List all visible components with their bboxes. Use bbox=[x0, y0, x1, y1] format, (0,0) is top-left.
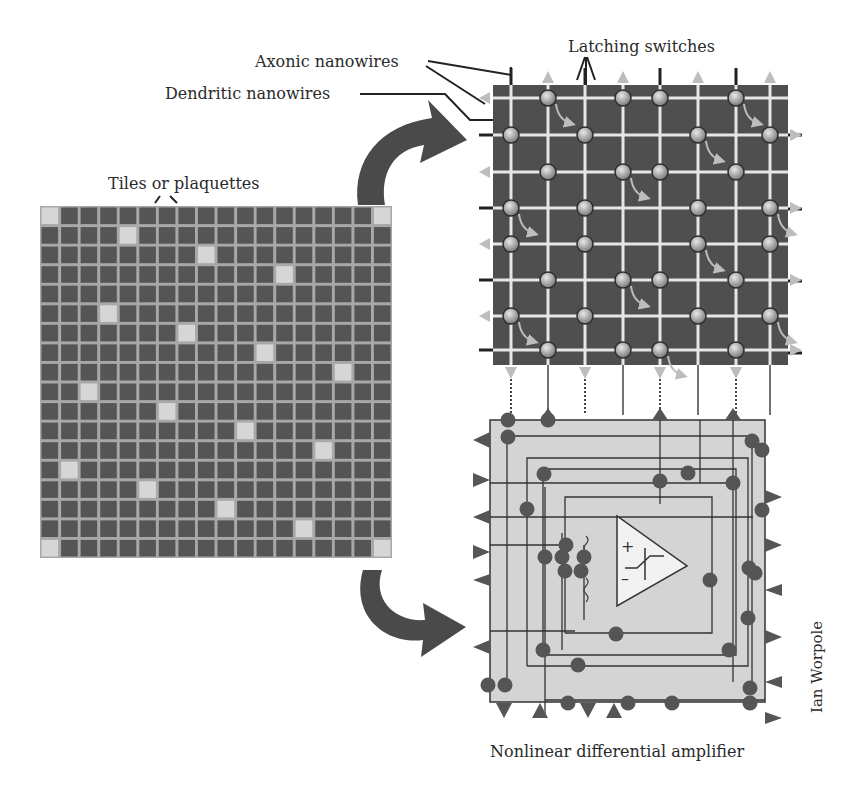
tile-dark bbox=[100, 462, 117, 479]
circuit-node bbox=[577, 550, 592, 565]
tile-dark bbox=[315, 364, 332, 381]
circuit-node bbox=[743, 681, 758, 696]
tile-dark bbox=[178, 266, 195, 283]
tile-dark bbox=[315, 286, 332, 303]
tile-dark bbox=[335, 344, 352, 361]
circuit-node bbox=[742, 561, 757, 576]
io-arrow-icon bbox=[473, 473, 490, 487]
latching-switch bbox=[615, 90, 631, 106]
nanowire-crossbar bbox=[479, 68, 802, 415]
curved-arrow-up-icon bbox=[357, 100, 467, 205]
tile-light bbox=[120, 227, 137, 244]
latching-switch bbox=[690, 200, 706, 216]
tile-dark bbox=[139, 208, 156, 225]
tile-dark bbox=[237, 384, 254, 401]
tile-dark bbox=[139, 286, 156, 303]
tile-dark bbox=[178, 540, 195, 557]
circuit-node bbox=[722, 643, 737, 658]
tile-light bbox=[276, 266, 293, 283]
tile-dark bbox=[120, 520, 137, 537]
tile-dark bbox=[315, 208, 332, 225]
io-arrow-icon bbox=[580, 703, 596, 718]
latching-switch bbox=[577, 236, 593, 252]
tile-light bbox=[42, 540, 59, 557]
tile-dark bbox=[354, 384, 371, 401]
circuit-node bbox=[703, 573, 718, 588]
tile-dark bbox=[257, 364, 274, 381]
tile-dark bbox=[139, 227, 156, 244]
tile-dark bbox=[198, 540, 215, 557]
tile-light bbox=[296, 520, 313, 537]
tile-dark bbox=[198, 325, 215, 342]
tile-dark bbox=[120, 481, 137, 498]
tile-dark bbox=[237, 344, 254, 361]
tile-dark bbox=[335, 423, 352, 440]
tile-dark bbox=[276, 364, 293, 381]
latching-switch bbox=[503, 308, 519, 324]
tile-dark bbox=[42, 384, 59, 401]
tile-dark bbox=[315, 344, 332, 361]
circuit-node bbox=[481, 678, 496, 693]
tile-dark bbox=[139, 247, 156, 264]
tile-dark bbox=[276, 540, 293, 557]
tile-dark bbox=[276, 481, 293, 498]
tile-dark bbox=[218, 364, 235, 381]
tile-dark bbox=[335, 403, 352, 420]
tile-dark bbox=[374, 344, 391, 361]
tile-dark bbox=[178, 286, 195, 303]
tile-dark bbox=[81, 208, 98, 225]
tile-dark bbox=[354, 208, 371, 225]
tile-light bbox=[42, 208, 59, 225]
tile-dark bbox=[120, 384, 137, 401]
latching-switch bbox=[540, 272, 556, 288]
tile-dark bbox=[178, 227, 195, 244]
tile-dark bbox=[296, 423, 313, 440]
tile-dark bbox=[374, 384, 391, 401]
tile-dark bbox=[237, 481, 254, 498]
latching-switch bbox=[615, 342, 631, 358]
tile-dark bbox=[100, 247, 117, 264]
tile-dark bbox=[315, 247, 332, 264]
tile-light bbox=[257, 344, 274, 361]
tile-dark bbox=[218, 325, 235, 342]
tile-dark bbox=[218, 403, 235, 420]
circuit-node bbox=[520, 502, 535, 517]
tile-dark bbox=[120, 364, 137, 381]
tile-dark bbox=[335, 481, 352, 498]
circuit-node bbox=[574, 564, 589, 579]
tile-dark bbox=[296, 540, 313, 557]
tile-dark bbox=[257, 384, 274, 401]
tile-dark bbox=[139, 344, 156, 361]
tile-dark bbox=[100, 540, 117, 557]
tile-grid bbox=[40, 206, 392, 558]
tile-dark bbox=[159, 227, 176, 244]
tile-dark bbox=[257, 266, 274, 283]
tile-light bbox=[335, 364, 352, 381]
tile-dark bbox=[218, 227, 235, 244]
tile-dark bbox=[139, 501, 156, 518]
tile-dark bbox=[81, 520, 98, 537]
circuit-node bbox=[501, 413, 516, 428]
tile-dark bbox=[296, 208, 313, 225]
tile-dark bbox=[81, 403, 98, 420]
tile-light bbox=[374, 208, 391, 225]
tile-dark bbox=[237, 286, 254, 303]
tile-dark bbox=[61, 227, 78, 244]
circuit-node bbox=[561, 696, 576, 711]
circuit-node bbox=[536, 643, 551, 658]
tile-dark bbox=[159, 501, 176, 518]
tile-dark bbox=[335, 384, 352, 401]
tile-dark bbox=[120, 305, 137, 322]
tile-dark bbox=[178, 423, 195, 440]
io-arrow-icon bbox=[606, 703, 622, 718]
credit-label: Ian Worpole bbox=[808, 621, 826, 713]
tile-dark bbox=[374, 423, 391, 440]
tile-dark bbox=[218, 305, 235, 322]
tile-dark bbox=[257, 305, 274, 322]
tile-dark bbox=[237, 305, 254, 322]
tile-dark bbox=[198, 364, 215, 381]
io-arrow-icon bbox=[765, 490, 782, 504]
latching-switch bbox=[615, 272, 631, 288]
tile-dark bbox=[120, 442, 137, 459]
tile-dark bbox=[296, 501, 313, 518]
